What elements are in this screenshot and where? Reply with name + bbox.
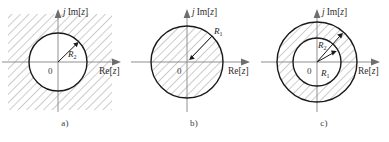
origin-label: 0: [177, 66, 182, 76]
imaginary-axis-label: jIm[z]: [61, 7, 88, 17]
panel-a: jIm[z] Re[z] 0 R2 a): [0, 0, 130, 142]
real-axis-arrow-icon: [371, 59, 380, 66]
imaginary-axis-arrow-icon: [314, 9, 321, 18]
panel-a-caption: a): [0, 118, 130, 128]
panel-b: jIm[z] Re[z] 0 R1 b): [129, 0, 259, 142]
imaginary-axis-label: jIm[z]: [320, 7, 347, 17]
origin-label: 0: [307, 66, 312, 76]
origin-label: 0: [48, 66, 53, 76]
real-axis-arrow-icon: [241, 59, 250, 66]
imaginary-axis-arrow-icon: [55, 9, 62, 18]
real-axis-arrow-icon: [112, 59, 121, 66]
real-axis-label: Re[z]: [99, 66, 120, 76]
real-axis-label: Re[z]: [358, 66, 379, 76]
panel-c: jIm[z] Re[z] 0 R2 R1 c): [259, 0, 389, 142]
real-axis-label: Re[z]: [228, 66, 249, 76]
imaginary-axis-arrow-icon: [184, 9, 191, 18]
imaginary-axis-label: jIm[z]: [190, 7, 217, 17]
panel-c-caption: c): [259, 118, 389, 128]
panel-b-caption: b): [129, 118, 259, 128]
radius-label-r1: R1: [213, 26, 223, 37]
roc-diagram-figure: jIm[z] Re[z] 0 R2 a): [0, 0, 389, 142]
